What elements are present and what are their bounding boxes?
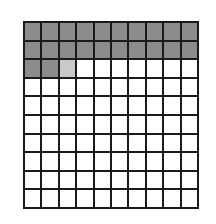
grid-diagram-figure <box>0 0 216 224</box>
grid-cell <box>182 116 197 133</box>
grid-cell <box>95 116 110 133</box>
grid-cell <box>129 172 144 189</box>
grid-cell <box>60 23 75 40</box>
grid-cell <box>147 172 162 189</box>
grid-cell <box>25 116 40 133</box>
grid-cell <box>112 42 127 59</box>
grid-cell <box>129 79 144 96</box>
grid-cell <box>112 135 127 152</box>
grid-cell <box>129 135 144 152</box>
grid-cell <box>77 135 92 152</box>
grid-cell <box>112 190 127 207</box>
grid-cell <box>129 42 144 59</box>
grid-cell <box>77 23 92 40</box>
grid-cell <box>182 153 197 170</box>
grid-cell <box>164 23 179 40</box>
grid-cell <box>147 42 162 59</box>
grid-cell <box>164 60 179 77</box>
grid-cell <box>95 23 110 40</box>
grid-cell <box>129 97 144 114</box>
grid-cell <box>164 116 179 133</box>
grid-cell <box>25 23 40 40</box>
grid-cell <box>129 116 144 133</box>
grid-cell <box>182 79 197 96</box>
grid-cell <box>164 172 179 189</box>
grid-cell <box>95 190 110 207</box>
grid-cell <box>25 97 40 114</box>
grid-cell <box>42 153 57 170</box>
grid-cell <box>60 116 75 133</box>
grid-cell <box>164 190 179 207</box>
grid-cell <box>164 79 179 96</box>
grid-cell <box>147 116 162 133</box>
grid-cell <box>95 42 110 59</box>
grid-cell <box>77 190 92 207</box>
grid-cell <box>95 153 110 170</box>
grid-cell <box>60 60 75 77</box>
grid-cell <box>147 79 162 96</box>
grid-cell <box>77 153 92 170</box>
grid-cell <box>129 190 144 207</box>
grid-cell <box>182 190 197 207</box>
grid-cell <box>77 79 92 96</box>
grid-cell <box>25 190 40 207</box>
grid-cell <box>60 42 75 59</box>
grid-cell <box>147 23 162 40</box>
grid-cell <box>60 153 75 170</box>
grid-cell <box>77 172 92 189</box>
grid-cell <box>95 172 110 189</box>
grid-cell <box>182 42 197 59</box>
grid-cell <box>112 116 127 133</box>
grid-cell <box>77 97 92 114</box>
shaded-grid <box>23 21 199 209</box>
grid-cell <box>60 135 75 152</box>
grid-cell <box>182 60 197 77</box>
grid-cell <box>95 97 110 114</box>
grid-cell <box>42 172 57 189</box>
grid-cell <box>60 190 75 207</box>
grid-cell <box>60 97 75 114</box>
grid-cell <box>95 135 110 152</box>
grid-cell <box>42 79 57 96</box>
grid-cell <box>164 135 179 152</box>
grid-cell <box>95 79 110 96</box>
grid-cell <box>164 42 179 59</box>
grid-cell <box>182 172 197 189</box>
grid-cell <box>60 79 75 96</box>
grid-cell <box>129 23 144 40</box>
grid-cell <box>147 60 162 77</box>
grid-cell <box>164 97 179 114</box>
grid-cell <box>112 172 127 189</box>
grid-cell <box>77 42 92 59</box>
grid-cell <box>129 60 144 77</box>
grid-cell <box>42 116 57 133</box>
grid-cell <box>60 172 75 189</box>
grid-cell <box>42 60 57 77</box>
grid-cell <box>112 60 127 77</box>
grid-cell <box>147 153 162 170</box>
grid-cell <box>147 135 162 152</box>
grid-cell <box>42 42 57 59</box>
grid-cell <box>182 97 197 114</box>
grid-cell <box>164 153 179 170</box>
grid-cell <box>182 23 197 40</box>
grid-cell <box>25 135 40 152</box>
grid-cell <box>25 79 40 96</box>
grid-cell <box>42 135 57 152</box>
grid-cell <box>147 190 162 207</box>
grid-cell <box>42 23 57 40</box>
grid-cell <box>25 172 40 189</box>
grid-cell <box>147 97 162 114</box>
grid-cell <box>112 79 127 96</box>
grid-cell <box>25 42 40 59</box>
grid-cell <box>42 190 57 207</box>
grid-cell <box>77 116 92 133</box>
grid-cell <box>129 153 144 170</box>
grid-cell <box>25 60 40 77</box>
grid-cell <box>42 97 57 114</box>
grid-cell <box>112 23 127 40</box>
grid-cell <box>112 97 127 114</box>
grid-cell <box>182 135 197 152</box>
grid-cell <box>95 60 110 77</box>
grid-cell <box>112 153 127 170</box>
